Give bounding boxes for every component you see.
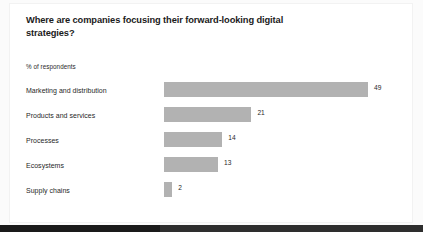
bar-fill <box>164 157 218 172</box>
bar-row: Products and services21 <box>10 105 412 130</box>
bar-category-label: Products and services <box>26 112 95 119</box>
page-title: Where are companies focusing their forwa… <box>26 14 326 39</box>
bar-row: Ecosystems13 <box>10 155 412 180</box>
bar-category-label: Supply chains <box>26 187 70 194</box>
bar-value-label: 13 <box>224 159 231 166</box>
bar-row: Marketing and distribution49 <box>10 80 412 105</box>
bar-fill <box>164 82 368 97</box>
bar-value-label: 14 <box>228 134 235 141</box>
bar-chart: Marketing and distribution49Products and… <box>10 80 412 206</box>
bar-category-label: Processes <box>26 137 59 144</box>
bar-row: Supply chains2 <box>10 180 412 205</box>
bar-value-label: 21 <box>257 109 264 116</box>
bar-fill <box>164 182 172 197</box>
chart-subtitle: % of respondents <box>26 63 76 70</box>
chart-card: Where are companies focusing their forwa… <box>10 4 412 222</box>
bar-row: Processes14 <box>10 130 412 155</box>
bar-fill <box>164 107 251 122</box>
bar-fill <box>164 132 222 147</box>
footer-band-accent <box>0 225 160 232</box>
bar-value-label: 2 <box>178 184 182 191</box>
bar-category-label: Ecosystems <box>26 162 64 169</box>
bar-category-label: Marketing and distribution <box>26 87 107 94</box>
bar-value-label: 49 <box>374 84 381 91</box>
